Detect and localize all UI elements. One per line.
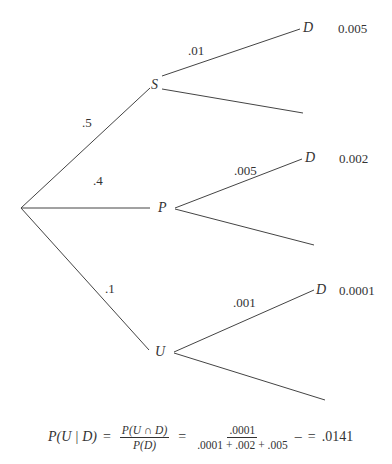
fraction-1-denominator: P(D) <box>131 438 158 451</box>
prob-p-label: .4 <box>93 174 103 187</box>
outcome-d-u: D <box>316 283 326 297</box>
branch-root-u <box>21 208 149 350</box>
branch-s-notd <box>162 89 303 113</box>
prob-d-given-p: .005 <box>234 164 257 177</box>
prob-u-label: .1 <box>105 282 115 295</box>
prob-d-given-s: .01 <box>188 44 204 57</box>
outcome-d-s: D <box>303 21 313 35</box>
joint-prob-s-d: 0.005 <box>338 22 367 35</box>
equals-3: = <box>308 429 316 445</box>
fraction-2-denominator: .0001 + .002 + .005 <box>195 438 290 451</box>
branch-root-s <box>21 88 150 208</box>
branch-s-d <box>162 29 300 76</box>
bayes-formula: P(U | D) = P(U ∩ D) P(D) = .0001 .0001 +… <box>48 422 353 452</box>
outcome-d-p: D <box>305 151 315 165</box>
fraction-2-numerator: .0001 <box>227 424 257 438</box>
prob-d-given-u: .001 <box>233 296 256 309</box>
branch-p-notd <box>175 209 314 245</box>
joint-prob-u-d: 0.0001 <box>339 284 375 297</box>
formula-lhs: P(U | D) <box>48 429 97 445</box>
fraction-values: .0001 .0001 + .002 + .005 <box>195 424 290 451</box>
fraction-definition: P(U ∩ D) P(D) <box>120 424 169 451</box>
node-s: S <box>151 78 158 92</box>
prob-s-label: .5 <box>82 116 92 129</box>
equals-1: = <box>103 429 111 445</box>
trailing-dash: – <box>295 429 302 445</box>
formula-result: .0141 <box>322 429 354 445</box>
node-u: U <box>155 345 165 359</box>
probability-tree <box>0 0 392 464</box>
equals-2: = <box>178 429 186 445</box>
joint-prob-p-d: 0.002 <box>339 152 368 165</box>
fraction-1-numerator: P(U ∩ D) <box>120 424 169 438</box>
node-p: P <box>158 201 167 215</box>
branch-u-notd <box>174 353 325 400</box>
